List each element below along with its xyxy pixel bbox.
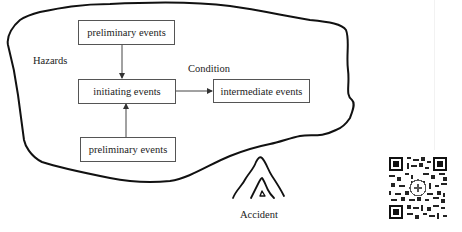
hazard-diagram: Hazards Condition Accident preliminary e… (0, 0, 462, 232)
node-label: initiating events (93, 86, 160, 97)
fire-flame-icon (233, 157, 284, 198)
node-label: preliminary events (89, 144, 167, 155)
node-label: preliminary events (87, 27, 165, 38)
qr-code-icon (387, 155, 449, 221)
hazards-label: Hazards (33, 55, 67, 66)
condition-label: Condition (188, 63, 230, 74)
node-intermediate-events: intermediate events (213, 79, 310, 103)
node-preliminary-events-bottom: preliminary events (80, 137, 176, 162)
node-label: intermediate events (221, 86, 303, 97)
accident-label: Accident (240, 209, 278, 220)
page-edge-line (434, 0, 435, 150)
node-initiating-events: initiating events (78, 79, 176, 104)
node-preliminary-events-top: preliminary events (78, 20, 175, 45)
